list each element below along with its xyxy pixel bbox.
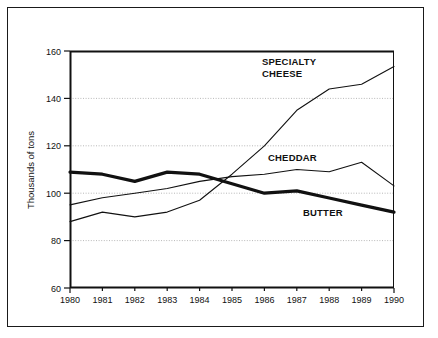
- x-tick-label-1985: 1985: [222, 295, 242, 305]
- y-tick-label-140: 140: [46, 94, 61, 104]
- x-tick-label-1981: 1981: [92, 295, 112, 305]
- x-tick-label-1989: 1989: [352, 295, 372, 305]
- x-tick-label-1988: 1988: [319, 295, 339, 305]
- series-line-specialty-cheese: [70, 67, 394, 222]
- y-tick-labels: 160 140 120 100 80 60: [46, 47, 61, 294]
- label-butter: BUTTER: [303, 207, 343, 218]
- label-cheddar: CHEDDAR: [268, 152, 317, 163]
- y-tick-label-80: 80: [51, 236, 61, 246]
- series-line-butter: [70, 172, 394, 212]
- y-tick-marks: [64, 51, 70, 288]
- y-tick-label-100: 100: [46, 189, 61, 199]
- x-tick-label-1986: 1986: [254, 295, 274, 305]
- y-tick-label-160: 160: [46, 47, 61, 57]
- x-tick-label-1980: 1980: [60, 295, 80, 305]
- gridlines: [70, 98, 394, 240]
- x-tick-marks: [70, 288, 394, 293]
- x-tick-label-1984: 1984: [190, 295, 210, 305]
- y-tick-label-120: 120: [46, 141, 61, 151]
- x-tick-label-1990: 1990: [384, 295, 404, 305]
- x-tick-label-1987: 1987: [287, 295, 307, 305]
- label-specialty-cheese-line2: CHEESE: [262, 68, 302, 79]
- y-tick-label-60: 60: [51, 284, 61, 294]
- x-tick-labels: 1980 1981 1982 1983 1984 1985 1986 1987 …: [60, 295, 404, 305]
- x-tick-label-1982: 1982: [125, 295, 145, 305]
- label-specialty-cheese-line1: SPECIALTY: [262, 56, 317, 67]
- chart-figure: 160 140 120 100 80 60 1980 1981 1982 198…: [0, 0, 438, 338]
- y-axis-title: Thousands of tons: [25, 131, 36, 209]
- series-lines: [70, 67, 394, 222]
- x-tick-label-1983: 1983: [157, 295, 177, 305]
- line-chart: 160 140 120 100 80 60 1980 1981 1982 198…: [0, 0, 438, 338]
